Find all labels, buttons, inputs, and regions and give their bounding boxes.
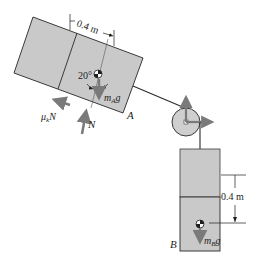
normal-force-arrow	[82, 112, 86, 134]
block-a-label: A	[126, 109, 134, 121]
dimension-a-label: 0.4 m	[75, 18, 100, 36]
block-b-upper	[180, 149, 220, 197]
center-of-mass-a-icon	[94, 70, 102, 78]
center-of-mass-b-icon	[196, 220, 204, 228]
normal-force-label: N	[87, 118, 96, 130]
pulley	[172, 98, 211, 136]
friction-arrow	[55, 100, 70, 105]
block-a	[14, 17, 185, 113]
block-a-body	[14, 17, 143, 113]
dimension-b-label: 0.4 m	[221, 191, 244, 202]
friction-label: μkN	[40, 111, 57, 124]
block-b-label: B	[170, 238, 177, 250]
angle-label: 20°	[78, 70, 92, 81]
pulley-block-diagram: 0.4 m 20° mAg A μkN N	[0, 0, 258, 264]
rope-a-to-pulley	[133, 86, 185, 108]
